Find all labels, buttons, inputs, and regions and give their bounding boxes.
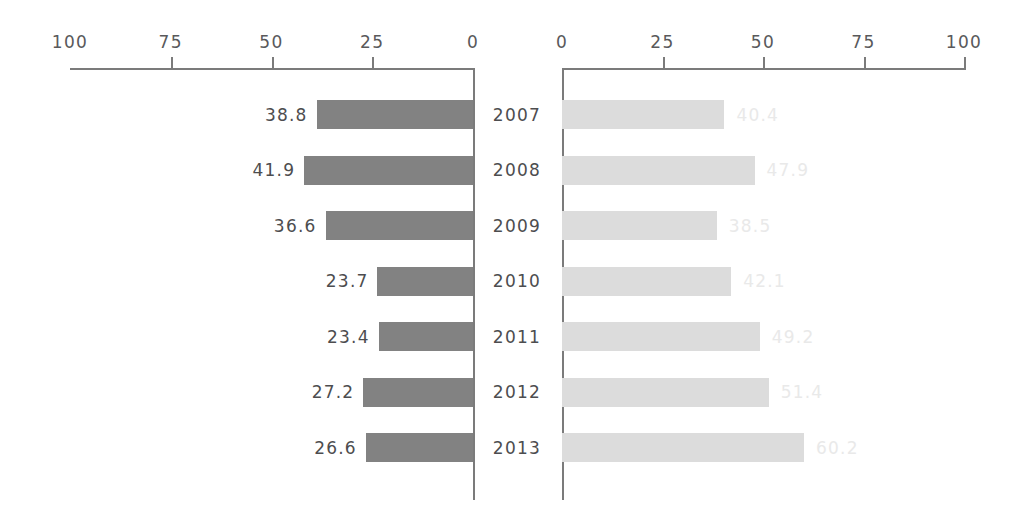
bar-left[interactable] [304, 156, 473, 185]
bar-right[interactable] [562, 267, 731, 296]
row-category-label: 2008 [493, 160, 541, 180]
bar-value-right: 60.2 [816, 438, 859, 458]
bar-left[interactable] [366, 433, 473, 462]
row-category-label: 2013 [493, 438, 541, 458]
chart-rows: 38.8200740.441.9200847.936.6200938.523.7… [0, 0, 1034, 531]
bar-value-right: 42.1 [743, 271, 786, 291]
chart-row: 36.6200938.5 [0, 211, 1034, 240]
bar-value-right: 47.9 [767, 160, 810, 180]
chart-row: 23.7201042.1 [0, 267, 1034, 296]
chart-row: 26.6201360.2 [0, 433, 1034, 462]
bar-value-right: 49.2 [772, 327, 815, 347]
row-category-label: 2010 [493, 271, 541, 291]
bar-right[interactable] [562, 433, 804, 462]
bar-value-right: 38.5 [729, 216, 772, 236]
bar-right[interactable] [562, 156, 755, 185]
row-category-label: 2011 [493, 327, 541, 347]
chart-row: 27.2201251.4 [0, 378, 1034, 407]
bar-value-right: 51.4 [781, 382, 824, 402]
row-category-label: 2012 [493, 382, 541, 402]
row-category-label: 2007 [493, 105, 541, 125]
bar-left[interactable] [326, 211, 473, 240]
bar-value-left: 36.6 [274, 216, 317, 236]
bar-right[interactable] [562, 211, 717, 240]
bar-value-right: 40.4 [736, 105, 779, 125]
bar-value-left: 23.7 [326, 271, 369, 291]
bar-value-left: 38.8 [265, 105, 308, 125]
bar-right[interactable] [562, 378, 769, 407]
bar-value-left: 27.2 [312, 382, 355, 402]
chart-row: 23.4201149.2 [0, 322, 1034, 351]
bar-left[interactable] [317, 100, 473, 129]
bar-left[interactable] [379, 322, 473, 351]
chart-row: 41.9200847.9 [0, 156, 1034, 185]
row-category-label: 2009 [493, 216, 541, 236]
bar-right[interactable] [562, 100, 724, 129]
bar-value-left: 26.6 [314, 438, 357, 458]
bar-left[interactable] [377, 267, 473, 296]
chart-row: 38.8200740.4 [0, 100, 1034, 129]
bar-left[interactable] [363, 378, 473, 407]
bar-right[interactable] [562, 322, 760, 351]
bar-value-left: 41.9 [253, 160, 296, 180]
bar-value-left: 23.4 [327, 327, 370, 347]
chart-canvas: 1007550250 0255075100 38.8200740.441.920… [0, 0, 1034, 531]
